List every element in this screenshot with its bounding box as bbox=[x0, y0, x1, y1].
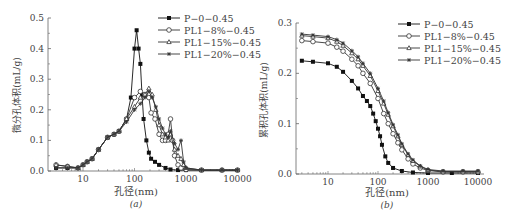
panel-a-data-point bbox=[168, 117, 173, 122]
panel-a-data-point bbox=[150, 96, 154, 100]
panel-a-data-point bbox=[133, 108, 137, 112]
panel-b-x-axis-label: 孔径(nm) bbox=[365, 186, 409, 198]
panel-b-data-point bbox=[341, 49, 346, 54]
panel-b-legend-item: P−0−0.45 bbox=[398, 19, 474, 30]
legend-marker bbox=[167, 16, 171, 20]
panel-a-y-tick-label: 0.1 bbox=[30, 135, 44, 145]
panel-b-data-point bbox=[365, 99, 369, 103]
panel-b-data-point bbox=[311, 33, 315, 37]
panel-a-y-tick-label: 0.4 bbox=[30, 44, 45, 54]
panel-a-data-point bbox=[168, 129, 172, 133]
legend-marker bbox=[167, 40, 171, 44]
panel-a-data-point bbox=[147, 86, 151, 90]
panel-b-y-tick-label: 0.3 bbox=[278, 18, 293, 28]
panel-b-data-point bbox=[391, 131, 396, 136]
panel-b-data-point bbox=[391, 166, 395, 170]
panel-a-data-point bbox=[179, 138, 183, 142]
panel-b-data-point bbox=[411, 170, 415, 174]
panel-b-data-point bbox=[356, 86, 360, 90]
panel-b-data-point bbox=[350, 79, 354, 83]
legend-label: PL1−20%−0.45 bbox=[424, 55, 501, 66]
panel-b-data-point bbox=[400, 148, 405, 153]
panel-b-x-tick-label: 100 bbox=[369, 177, 386, 187]
legend-label: PL1−8%−0.45 bbox=[424, 31, 495, 42]
legend-marker bbox=[167, 28, 172, 33]
panel-b-data-point bbox=[335, 38, 339, 42]
legend-marker bbox=[407, 34, 412, 39]
panel-a-data-point bbox=[112, 132, 116, 136]
panel-b-data-point bbox=[386, 121, 391, 126]
panel-b: 累积孔体积(mL/g) 孔径(nm) (b) 0.00.10.20.310100… bbox=[258, 18, 501, 210]
panel-b-data-point bbox=[386, 111, 390, 115]
legend-marker bbox=[407, 46, 411, 50]
panel-b-data-point bbox=[335, 45, 340, 50]
panel-b-data-point bbox=[341, 70, 345, 74]
panel-a-series-line bbox=[56, 88, 237, 170]
panel-b-data-point bbox=[382, 99, 386, 103]
panel-b-data-point bbox=[418, 164, 422, 168]
panel-a-data-point bbox=[106, 135, 110, 139]
panel-a-data-point bbox=[166, 135, 170, 139]
panel-a-data-point bbox=[90, 157, 94, 161]
panel-b-data-point bbox=[400, 142, 404, 146]
panel-a-data-point bbox=[173, 141, 177, 145]
panel-a-data-point bbox=[161, 126, 165, 130]
legend-label: P−0−0.45 bbox=[424, 19, 474, 30]
panel-a-data-point bbox=[149, 157, 153, 161]
panel-a-y-tick-label: 0.2 bbox=[30, 105, 44, 115]
panel-b-data-point bbox=[300, 32, 304, 36]
panel-a-label: (a) bbox=[130, 199, 143, 209]
panel-b-data-point bbox=[383, 154, 387, 158]
legend-label: P−0−0.45 bbox=[184, 13, 234, 24]
panel-b-x-tick-label: 1000 bbox=[417, 177, 440, 187]
panel-b-y-tick-label: 0.0 bbox=[278, 169, 293, 179]
panel-a-data-point bbox=[138, 89, 143, 94]
panel-b-y-axis-label: 累积孔体积(mL/g) bbox=[258, 62, 269, 137]
panel-b-legend: P−0−0.45PL1−8%−0.45PL1−15%−0.45PL1−20%−0… bbox=[398, 19, 501, 66]
panel-a-series-3 bbox=[54, 89, 239, 172]
panel-b-data-point bbox=[396, 133, 400, 137]
panel-b-data-point bbox=[350, 57, 355, 62]
panel-a-y-axis-label: 微分孔体积(mL/g) bbox=[11, 57, 22, 132]
legend-label: PL1−8%−0.45 bbox=[184, 25, 255, 36]
panel-b-data-point bbox=[356, 55, 360, 59]
panel-b-data-point bbox=[396, 140, 401, 145]
panel-b-data-point bbox=[406, 152, 410, 156]
panel-a-x-tick-label: 100 bbox=[126, 174, 143, 184]
panel-b-data-point bbox=[371, 112, 375, 116]
panel-a-data-point bbox=[76, 166, 80, 170]
panel-a-legend-item: PL1−8%−0.45 bbox=[158, 25, 255, 36]
panel-b-data-point bbox=[378, 134, 382, 138]
panel-b-data-point bbox=[356, 63, 361, 68]
panel-a-legend: P−0−0.45PL1−8%−0.45PL1−15%−0.45PL1−20%−0… bbox=[158, 13, 261, 60]
panel-a-data-point bbox=[54, 166, 58, 170]
panel-b-data-point bbox=[426, 167, 430, 171]
panel-b-data-point bbox=[368, 81, 373, 86]
panel-a-data-point bbox=[236, 168, 240, 172]
panel-a-data-point bbox=[143, 96, 147, 100]
panel-b-data-point bbox=[368, 104, 372, 108]
legend-label: PL1−15%−0.45 bbox=[424, 43, 501, 54]
panel-a-data-point bbox=[81, 163, 85, 167]
panel-a-data-point bbox=[117, 129, 121, 133]
panel-a-data-point bbox=[85, 160, 89, 164]
panel-b-data-point bbox=[441, 169, 445, 173]
panel-b-data-point bbox=[374, 119, 378, 123]
legend-marker bbox=[407, 58, 411, 62]
panel-b-data-point bbox=[335, 65, 339, 69]
panel-b-y-tick-label: 0.1 bbox=[278, 119, 292, 129]
panel-a-data-point bbox=[164, 166, 168, 170]
legend-marker bbox=[407, 22, 411, 26]
panel-a-data-point bbox=[153, 117, 158, 122]
panel-a-data-point bbox=[125, 120, 129, 124]
panel-b-x-tick-label: 10000 bbox=[464, 177, 493, 187]
panel-a-data-point bbox=[147, 89, 151, 93]
panel-a-data-point bbox=[97, 148, 101, 152]
panel-b-data-point bbox=[376, 96, 381, 101]
panel-a-legend-item: P−0−0.45 bbox=[158, 13, 234, 24]
panel-a-y-tick-label: 0.0 bbox=[30, 166, 45, 176]
panel-a-data-point bbox=[220, 168, 224, 172]
panel-a-x-tick-label: 1000 bbox=[175, 174, 198, 184]
legend-marker bbox=[167, 52, 171, 56]
panel-a-data-point bbox=[142, 117, 146, 121]
